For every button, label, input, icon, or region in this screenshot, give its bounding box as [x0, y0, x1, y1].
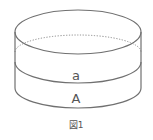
figure-caption: 図1 [69, 120, 84, 130]
label-lower-layer: A [72, 91, 81, 106]
top-ellipse [15, 10, 141, 54]
label-upper-layer: a [72, 68, 80, 83]
hidden-interface-dotted-arc [15, 35, 141, 52]
cylinder-diagram: a A 図1 [0, 0, 153, 140]
